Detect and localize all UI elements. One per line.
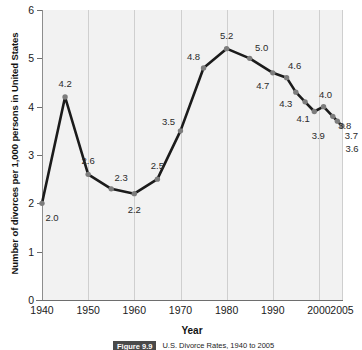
data-point-label: 4.6 [288,59,301,70]
data-point-label: 5.2 [220,29,233,40]
data-point-marker [302,99,307,104]
data-point-marker [224,46,229,51]
figure-caption: Figure 9.9 U.S. Divorce Rates, 1940 to 2… [113,341,362,350]
data-point-marker [284,75,289,80]
data-point-label: 3.6 [345,143,358,154]
data-point-label: 3.9 [312,129,325,140]
x-axis-title: Year [42,325,342,336]
y-tick-label: 6 [0,4,34,16]
series-polyline [42,49,342,204]
data-point-label: 5.0 [255,42,268,53]
data-point-marker [85,172,90,177]
y-tick-label: 2 [0,197,34,209]
data-point-label: 4.3 [279,98,292,109]
data-point-marker [39,201,44,206]
data-point-label: 4.1 [296,112,309,123]
data-point-marker [321,104,326,109]
figure-number-badge: Figure 9.9 [113,341,156,350]
data-point-label: 4.0 [319,88,332,99]
data-point-label: 2.0 [45,212,58,223]
y-tick-label: 5 [0,52,34,64]
x-axis-line [36,300,343,301]
data-point-marker [62,94,67,99]
figure-caption-text: U.S. Divorce Rates, 1940 to 2005 [162,341,274,350]
data-point-label: 4.7 [256,79,269,90]
y-tick-label: 4 [0,101,34,113]
data-point-label: 2.6 [82,155,95,166]
data-point-label: 2.3 [115,171,128,182]
divorce-rate-line-chart: Number of divorces per 1,000 persons in … [0,0,362,350]
data-point-marker [247,56,252,61]
data-point-marker [293,89,298,94]
data-point-marker [330,114,335,119]
data-point-marker [132,191,137,196]
data-point-label: 2.2 [128,203,141,214]
y-tick-mark [37,300,42,301]
data-point-marker [270,70,275,75]
x-tick-label: 2005 [312,304,362,316]
data-point-label: 3.7 [345,130,358,141]
data-point-label: 3.5 [162,115,175,126]
data-point-marker [178,128,183,133]
data-point-label: 2.5 [151,160,164,171]
y-tick-label: 3 [0,149,34,161]
gridline-x [342,10,343,300]
data-point-marker [109,186,114,191]
data-point-label: 4.8 [187,51,200,62]
data-point-label: 4.2 [58,78,71,89]
data-point-marker [312,109,317,114]
data-point-marker [155,176,160,181]
y-tick-label: 1 [0,246,34,258]
data-point-marker [201,65,206,70]
